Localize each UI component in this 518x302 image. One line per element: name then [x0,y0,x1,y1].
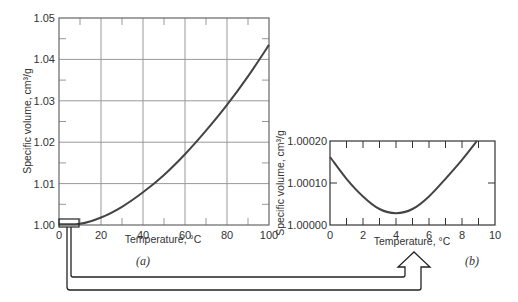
x-tick-label: 2 [360,229,366,241]
y-tick-label: 1.02 [34,136,55,148]
chart-a-x-axis-label: Temperature, °C [125,233,202,245]
figure: 020406080100 1.001.011.021.031.041.05 Te… [0,0,518,302]
chart-b-x-axis-label: Temperature, °C [374,235,451,247]
x-tick-label: 0 [327,229,333,241]
x-tick-label: 0 [56,229,62,241]
y-tick-label: 1.00020 [287,135,327,147]
chart-b-caption: (b) [465,254,479,268]
chart-a-curve [59,45,269,224]
y-tick-label: 1.00000 [287,219,327,231]
y-tick-label: 1.00 [34,219,55,231]
chart-b-curve [330,141,477,213]
chart-b: 0246810 1.000001.000101.00020 Temperatur… [274,130,501,268]
chart-a-minor-ticks [59,18,269,225]
chart-a-y-axis-label: Specific volume, cm³/g [21,68,33,174]
zoom-region-box [59,219,79,227]
y-tick-label: 1.01 [34,178,55,190]
x-tick-label: 20 [95,229,107,241]
chart-a-grid [59,18,269,225]
y-tick-label: 1.00010 [287,177,327,189]
chart-a-frame [59,18,269,225]
chart-b-y-axis-label: Specific volume, cm³/g [274,130,286,236]
chart-b-y-tick-labels: 1.000001.000101.00020 [287,135,327,231]
y-tick-label: 1.04 [34,53,55,65]
chart-a-y-tick-labels: 1.001.011.021.031.041.05 [34,12,55,231]
x-tick-label: 80 [221,229,233,241]
chart-b-frame [330,141,495,225]
x-tick-label: 10 [489,229,501,241]
y-tick-label: 1.05 [34,12,55,24]
chart-a: 020406080100 1.001.011.021.031.041.05 Te… [21,12,278,268]
x-tick-label: 8 [459,229,465,241]
chart-a-caption: (a) [136,254,150,268]
chart-b-minor-ticks [330,141,495,225]
y-tick-label: 1.03 [34,95,55,107]
